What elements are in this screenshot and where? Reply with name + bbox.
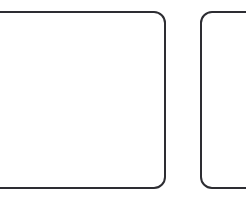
shape-layer (0, 0, 246, 204)
shape-canvas (0, 0, 246, 204)
rounded-rectangle-right[interactable] (201, 12, 246, 188)
rounded-rectangle-left[interactable] (0, 12, 165, 188)
